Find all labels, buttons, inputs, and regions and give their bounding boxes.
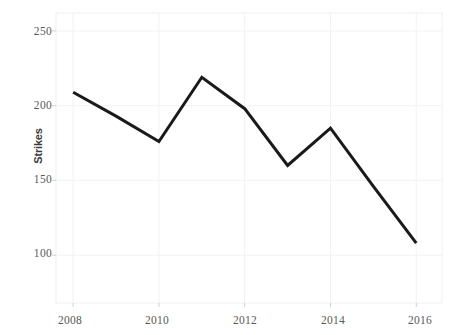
line-chart: Strikes 250 200 150 100 2008 2010 2012 2… — [0, 0, 450, 335]
plot-frame — [56, 13, 442, 303]
plot-area — [0, 0, 450, 335]
